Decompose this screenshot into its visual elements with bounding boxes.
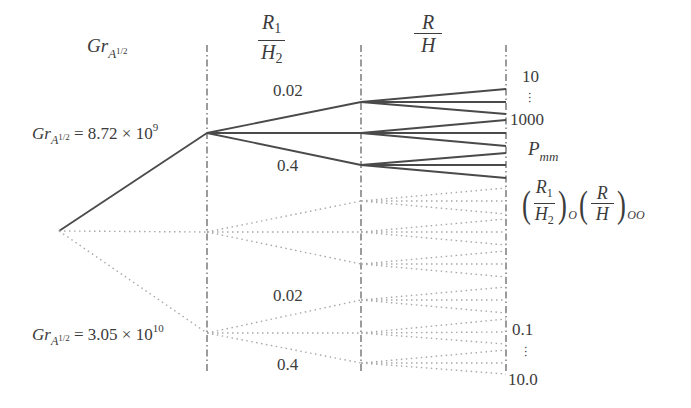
edge-level3-solid [361, 133, 506, 146]
edge-level3-solid [361, 153, 506, 165]
upper-ratio-label-0.4: 0.4 [277, 156, 298, 176]
edge-root-dotted [59, 231, 207, 333]
edge-level3-dotted [361, 333, 506, 344]
top-vdots-icon: ··· [528, 93, 532, 105]
edge-level3-solid [361, 102, 506, 114]
upper-gr-value-label: GrA1/2 = 8.72 × 109 [32, 121, 158, 148]
height-ratio-start-label: 10 [522, 67, 539, 87]
lower-gr-value-label: GrA1/2 = 3.05 × 1010 [32, 322, 164, 349]
header-r-h-fraction: R H [413, 12, 443, 55]
edge-level3-dotted [361, 188, 506, 201]
edge-level3-dotted [361, 319, 506, 333]
lower-height-ratio-end-label: 10.0 [508, 370, 538, 390]
edge-level3-solid [361, 165, 506, 178]
lower-ratio-label-0.4: 0.4 [277, 355, 298, 375]
edge-level3-dotted [361, 232, 506, 245]
header-gr-label: GrA1/2 [87, 35, 128, 62]
optimal-ratios-label: ( R1 H2 ) O ( R H ) OO [520, 178, 645, 229]
edge-level3-dotted [361, 264, 506, 277]
upper-ratio-label-0.02: 0.02 [273, 81, 303, 101]
edge-level2-dotted [207, 232, 361, 264]
lower-ratio-label-0.02: 0.02 [273, 286, 303, 306]
edge-level2-dotted [207, 201, 361, 232]
edge-level3-dotted [361, 251, 506, 264]
edge-level3-solid [361, 120, 506, 133]
edge-level3-dotted [361, 201, 506, 214]
bottom-vdots-icon: ··· [524, 347, 528, 359]
edge-level3-dotted [361, 363, 506, 374]
edge-level2-solid [207, 102, 361, 133]
lower-height-ratio-start-label: 0.1 [512, 320, 533, 340]
edge-root-dotted [59, 231, 207, 232]
edge-level3-dotted [361, 332, 506, 333]
edge-level3-dotted [361, 287, 506, 300]
height-ratio-end-label: 1000 [510, 110, 544, 130]
pmm-label: Pmm [528, 138, 558, 165]
edge-level3-dotted [361, 350, 506, 363]
header-r1-h2-fraction: R1 H2 [257, 12, 286, 69]
edge-level3-solid [361, 89, 506, 102]
edge-level3-dotted [361, 300, 506, 313]
edge-level3-dotted [361, 219, 506, 232]
